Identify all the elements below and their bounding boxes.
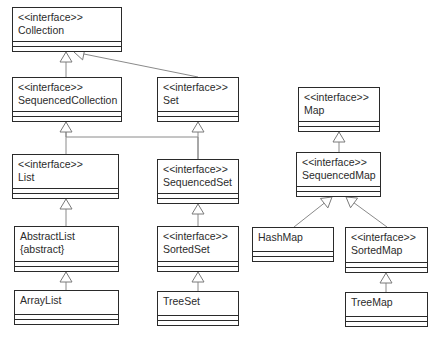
name-compartment: <<interface>> SequencedMap: [297, 153, 380, 186]
name-compartment: HashMap: [253, 228, 333, 251]
operations-compartment: [299, 126, 379, 131]
stereotype-label: <<interface>>: [18, 158, 118, 171]
stereotype-label: <<interface>>: [18, 11, 121, 24]
operations-compartment: [158, 116, 238, 121]
class-box-treemap[interactable]: TreeMap: [345, 292, 428, 327]
class-name: TreeSet: [163, 295, 238, 308]
uml-class-diagram: <<interface>> Collection <<interface>> S…: [0, 0, 438, 337]
operations-compartment: [15, 266, 118, 271]
operations-compartment: [158, 266, 238, 271]
class-box-abstractlist[interactable]: AbstractList {abstract}: [14, 226, 119, 272]
name-compartment: <<interface>> List: [13, 155, 118, 188]
name-compartment: TreeMap: [346, 293, 427, 316]
inheritance-arrowhead-icon: [380, 273, 392, 283]
name-compartment: <<interface>> SortedSet: [158, 227, 238, 261]
class-box-sortedmap[interactable]: <<interface>> SortedMap: [345, 227, 428, 273]
class-box-sequencedmap[interactable]: <<interface>> SequencedMap: [296, 152, 381, 197]
operations-compartment: [13, 46, 121, 51]
class-name: Collection: [18, 24, 121, 37]
stereotype-label: <<interface>>: [163, 163, 238, 176]
class-name: List: [18, 171, 118, 184]
class-name: Map: [304, 104, 379, 117]
generalization-sortedmap-to-sequencedmap: [346, 197, 387, 227]
stereotype-label: <<interface>>: [304, 91, 379, 104]
class-name: SortedSet: [163, 243, 238, 256]
class-box-collection[interactable]: <<interface>> Collection: [12, 7, 122, 52]
inheritance-arrowhead-icon: [60, 199, 72, 209]
inheritance-arrowhead-icon: [192, 122, 204, 132]
stereotype-label: <<interface>>: [351, 231, 427, 244]
stereotype-label: <<interface>>: [18, 81, 121, 94]
name-compartment: TreeSet: [158, 292, 238, 315]
inheritance-arrowhead-icon: [346, 197, 358, 208]
name-compartment: <<interface>> SequencedCollection: [13, 78, 121, 111]
stereotype-label: <<interface>>: [302, 156, 380, 169]
generalization-set-to-collection: [74, 52, 198, 77]
class-box-hashmap[interactable]: HashMap: [252, 227, 334, 262]
name-compartment: <<interface>> SortedMap: [346, 228, 427, 262]
operations-compartment: [158, 320, 238, 325]
stereotype-label: <<interface>>: [163, 230, 238, 243]
stereotype-label: <<interface>>: [163, 81, 238, 94]
inheritance-arrowhead-icon: [320, 197, 332, 208]
class-box-sequencedcollection[interactable]: <<interface>> SequencedCollection: [12, 77, 122, 122]
inheritance-arrowhead-icon: [60, 52, 72, 62]
name-compartment: <<interface>> Set: [158, 78, 238, 111]
class-box-map[interactable]: <<interface>> Map: [298, 87, 380, 132]
name-compartment: ArrayList: [15, 291, 118, 314]
class-modifier: {abstract}: [20, 243, 118, 256]
class-box-sortedset[interactable]: <<interface>> SortedSet: [157, 226, 239, 272]
inheritance-arrowhead-icon: [192, 272, 204, 282]
inheritance-arrowhead-icon: [60, 272, 72, 282]
class-name: Set: [163, 94, 238, 107]
inheritance-arrowhead-icon: [333, 132, 345, 142]
class-name: SequencedCollection: [18, 94, 121, 107]
generalization-hashmap-to-sequencedmap: [294, 197, 332, 227]
name-compartment: <<interface>> Map: [299, 88, 379, 121]
operations-compartment: [253, 256, 333, 261]
class-name: ArrayList: [20, 294, 118, 307]
name-compartment: AbstractList {abstract}: [15, 227, 118, 261]
class-name: HashMap: [258, 231, 333, 244]
class-box-treeset[interactable]: TreeSet: [157, 291, 239, 326]
name-compartment: <<interface>> SequencedSet: [158, 160, 238, 193]
class-box-list[interactable]: <<interface>> List: [12, 154, 119, 199]
operations-compartment: [15, 319, 118, 324]
inheritance-arrowhead-icon: [60, 122, 72, 132]
inheritance-arrowhead-icon: [192, 204, 204, 214]
operations-compartment: [346, 321, 427, 326]
class-name: SequencedSet: [163, 176, 238, 189]
operations-compartment: [13, 193, 118, 198]
class-box-arraylist[interactable]: ArrayList: [14, 290, 119, 325]
operations-compartment: [297, 191, 380, 196]
operations-compartment: [158, 198, 238, 203]
class-box-set[interactable]: <<interface>> Set: [157, 77, 239, 122]
name-compartment: <<interface>> Collection: [13, 8, 121, 41]
class-box-sequencedset[interactable]: <<interface>> SequencedSet: [157, 159, 239, 204]
class-name: SortedMap: [351, 244, 427, 257]
operations-compartment: [346, 267, 427, 272]
class-name: AbstractList: [20, 230, 118, 243]
class-name: TreeMap: [351, 296, 427, 309]
class-name: SequencedMap: [302, 169, 380, 182]
operations-compartment: [13, 116, 121, 121]
